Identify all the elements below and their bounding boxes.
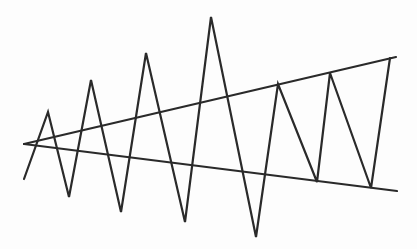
diagram-canvas: Expanding triangle (broadening wedge) pa… (0, 0, 417, 249)
lower-trendline (24, 144, 397, 191)
broadening-wedge-diagram (0, 0, 417, 249)
zigzag-line (24, 17, 390, 237)
